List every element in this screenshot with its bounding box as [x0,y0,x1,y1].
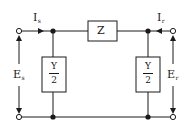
ir-symbol: I [157,11,161,24]
er-arrow-down-icon [170,108,176,114]
is-symbol: I [33,11,37,24]
left-bottom-junction-dot [50,114,55,119]
es-arrow-up-icon [16,35,22,41]
es-symbol: E [13,68,21,81]
right-fraction-bar [143,73,153,74]
left-top-junction-dot [50,28,55,33]
receiving-top-terminal [170,28,175,33]
right-top-junction-dot [145,28,150,33]
er-subscript: r [176,74,179,81]
sending-current-label: Is [33,12,41,24]
sending-top-terminal [16,28,21,33]
right-bottom-junction-dot [145,114,150,119]
ir-subscript: r [162,17,165,24]
er-symbol: E [167,68,175,81]
left-admittance-fraction: Y 2 [42,62,66,85]
receiving-voltage-label: Er [167,69,178,81]
receiving-bottom-terminal [170,114,175,119]
right-y-denominator: 2 [145,76,151,85]
er-arrow-up-icon [170,35,176,41]
right-admittance-fraction: Y 2 [136,62,160,85]
is-current-arrow-icon [38,28,44,34]
right-y-numerator: Y [145,62,151,71]
sending-voltage-label: Es [13,69,25,81]
left-fraction-bar [49,73,59,74]
left-y-numerator: Y [51,62,57,71]
is-subscript: s [38,17,41,24]
left-y-denominator: 2 [51,76,57,85]
impedance-z-label: Z [97,25,105,36]
es-subscript: s [22,74,25,81]
sending-bottom-terminal [16,114,21,119]
ir-current-arrow-icon [156,28,162,34]
es-arrow-down-icon [16,108,22,114]
z-text: Z [97,24,105,37]
receiving-current-label: Ir [157,12,165,24]
